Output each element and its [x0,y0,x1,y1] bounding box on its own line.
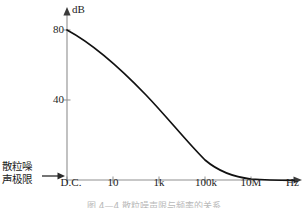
figure-container: dB Hz 80 40 D.C. 10 1k 100k 10M 散粒噪 声极限 … [0,0,308,208]
x-tick-label-100k: 100k [195,177,217,188]
shot-noise-limit-curve [67,30,294,180]
x-tick-label-dc: D.C. [61,177,82,188]
annotation-line-1: 散粒噪 [2,160,50,173]
y-axis-arrowhead-icon [63,7,70,16]
x-axis-unit-label: Hz [286,177,299,188]
x-tick-label-10: 10 [108,177,119,188]
y-tick-label-80: 80 [38,24,64,35]
figure-caption: 图 4—4 散粒噪声限与频率的关系 [0,199,308,208]
shot-noise-limit-annotation: 散粒噪 声极限 [2,160,50,186]
x-tick-label-10M: 10M [241,177,262,188]
x-tick-label-1k: 1k [154,177,165,188]
y-tick-label-40: 40 [38,94,64,105]
annotation-line-2: 声极限 [2,173,50,186]
y-axis-unit-label: dB [72,4,85,15]
